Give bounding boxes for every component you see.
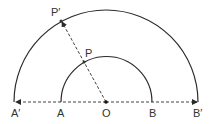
point-p [83,61,86,64]
inner-semicircle [61,57,152,102]
label-b: B [149,107,156,119]
label-p-prime: P′ [51,6,60,18]
label-b-prime: B′ [193,107,202,119]
label-o: O [102,107,111,119]
label-a-prime: A′ [11,107,20,119]
point-p-prime [60,20,63,23]
diagram-canvas: A′ A O B B′ P P′ [0,0,211,124]
point-o [104,100,108,104]
label-a: A [57,107,65,119]
label-p: P [85,47,92,59]
